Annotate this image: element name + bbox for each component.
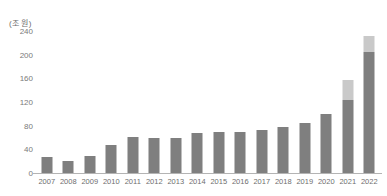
y-axis-tick-160: 160 (3, 74, 33, 83)
bar-segment-top-2021 (342, 80, 353, 100)
bar-segment-base-2021 (342, 100, 353, 173)
bar-segment-base-2019 (299, 123, 310, 173)
y-axis-tick-80: 80 (3, 121, 33, 130)
bar-segment-base-2008 (63, 161, 74, 173)
bar-segment-base-2009 (84, 156, 95, 173)
bar-segment-base-2018 (278, 127, 289, 173)
bar-segment-top-2022 (364, 36, 375, 52)
y-axis-tick-240: 240 (3, 27, 33, 36)
y-axis-tick-200: 200 (3, 50, 33, 59)
plot-area (36, 31, 380, 173)
bar-segment-base-2012 (149, 138, 160, 174)
bar-2009 (79, 31, 101, 173)
y-axis-tick-40: 40 (3, 145, 33, 154)
bar-stack-2020 (321, 114, 332, 173)
bar-stack-2017 (256, 130, 267, 173)
bar-segment-base-2007 (41, 157, 52, 173)
bar-stack-2018 (278, 127, 289, 173)
bar-2008 (58, 31, 80, 173)
bar-segment-base-2016 (235, 132, 246, 173)
bar-stack-2009 (84, 156, 95, 173)
bar-stack-2010 (106, 145, 117, 173)
y-axis: 04080120160200240 (0, 0, 33, 196)
x-axis-tick-2022: 2022 (355, 177, 383, 186)
bar-stack-2014 (192, 133, 203, 173)
bar-stack-2019 (299, 123, 310, 173)
y-axis-tick-0: 0 (3, 169, 33, 178)
bar-stack-2016 (235, 132, 246, 173)
bar-stack-2022 (364, 36, 375, 173)
bar-stack-2011 (127, 137, 138, 173)
bar-2017 (251, 31, 273, 173)
bar-2010 (101, 31, 123, 173)
bar-2020 (316, 31, 338, 173)
bar-2021 (337, 31, 359, 173)
bar-segment-base-2011 (127, 137, 138, 173)
bar-2015 (208, 31, 230, 173)
bar-segment-base-2013 (170, 138, 181, 174)
bar-segment-base-2015 (213, 132, 224, 173)
bar-stack-2021 (342, 80, 353, 173)
bar-2022 (359, 31, 381, 173)
bar-segment-base-2020 (321, 114, 332, 173)
bar-2019 (294, 31, 316, 173)
bar-2016 (230, 31, 252, 173)
bar-chart: (조 원) 04080120160200240 2007200820092010… (0, 0, 387, 196)
x-axis: 2007200820092010201120122013201420152016… (36, 177, 380, 193)
bar-2007 (36, 31, 58, 173)
bar-stack-2012 (149, 138, 160, 174)
bar-segment-base-2010 (106, 145, 117, 173)
bar-2013 (165, 31, 187, 173)
bar-segment-base-2022 (364, 52, 375, 173)
y-axis-tick-120: 120 (3, 98, 33, 107)
bar-2012 (144, 31, 166, 173)
bar-segment-base-2017 (256, 130, 267, 173)
bar-stack-2007 (41, 157, 52, 173)
bar-2018 (273, 31, 295, 173)
bar-stack-2008 (63, 161, 74, 173)
bar-2011 (122, 31, 144, 173)
bar-stack-2013 (170, 138, 181, 174)
bar-segment-base-2014 (192, 133, 203, 173)
bar-stack-2015 (213, 132, 224, 173)
bar-2014 (187, 31, 209, 173)
